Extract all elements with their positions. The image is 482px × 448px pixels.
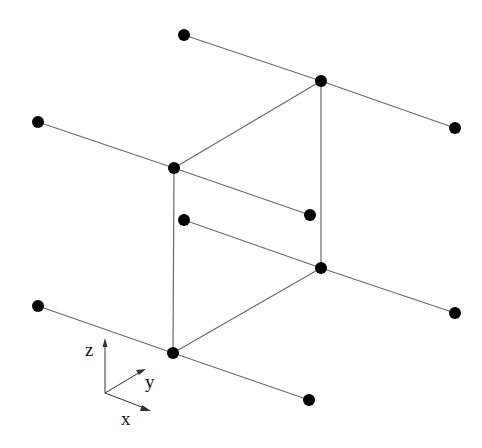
node-n8	[315, 262, 327, 274]
z-arrowhead-icon	[103, 338, 108, 347]
node-n12	[303, 394, 315, 406]
edge	[173, 353, 309, 400]
x-arrowhead-icon	[140, 405, 151, 411]
edge	[321, 268, 455, 313]
edges	[38, 35, 455, 400]
edge	[173, 268, 321, 353]
edge	[173, 168, 174, 353]
x-label: x	[121, 408, 131, 429]
node-n3	[449, 122, 461, 134]
y-axis	[105, 371, 142, 393]
edge	[321, 81, 455, 128]
x-axis	[105, 393, 147, 409]
y-label: y	[145, 371, 155, 392]
node-n4	[32, 116, 44, 128]
node-n6	[304, 209, 316, 221]
edge	[184, 35, 321, 81]
lattice-diagram: z y x	[0, 0, 482, 448]
edge	[174, 168, 310, 215]
edge	[174, 81, 321, 168]
axis-triad: z y x	[85, 338, 155, 429]
node-n9	[449, 307, 461, 319]
node-n2	[315, 75, 327, 87]
node-n1	[178, 29, 190, 41]
node-n11	[167, 347, 179, 359]
node-n7	[178, 214, 190, 226]
nodes	[32, 29, 461, 406]
node-n10	[32, 300, 44, 312]
z-label: z	[85, 339, 93, 360]
edge	[38, 122, 174, 168]
node-n5	[168, 162, 180, 174]
edge	[184, 220, 321, 268]
